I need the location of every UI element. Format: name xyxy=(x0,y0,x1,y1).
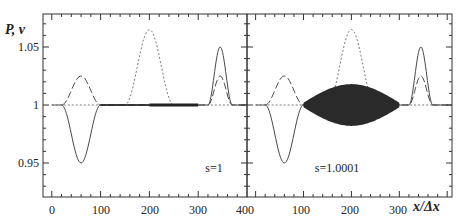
y-tick-label-1.05: 1.05 xyxy=(18,40,39,54)
x-axis-label: x/Δx xyxy=(412,199,440,214)
y-tick-label-1: 1 xyxy=(33,98,39,112)
right-x-tick-label-300: 300 xyxy=(389,203,407,217)
left-x-tick-label-100: 100 xyxy=(92,203,110,217)
right-x-tick-label-200: 200 xyxy=(341,203,359,217)
left-x-tick-label-300: 300 xyxy=(189,203,207,217)
left-x-tick-label-200: 200 xyxy=(141,203,159,217)
left-annotation: s=1 xyxy=(205,161,222,175)
noise-band xyxy=(149,104,198,107)
right-annotation: s=1.0001 xyxy=(315,161,359,175)
right-x-tick-label-100: 100 xyxy=(292,203,310,217)
figure: P, v x/Δx 1.05 1 0.95 0 100 200 300 400 … xyxy=(0,0,473,223)
left-x-tick-label-0: 0 xyxy=(49,203,55,217)
left-x-tick-label-400: 400 xyxy=(236,203,254,217)
y-tick-label-0.95: 0.95 xyxy=(18,156,39,170)
y-axis-label: P, v xyxy=(5,22,26,37)
